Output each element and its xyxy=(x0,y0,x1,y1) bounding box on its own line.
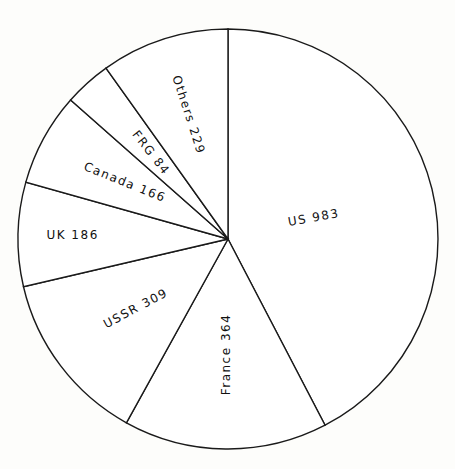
pie-chart: US 983France 364USSR 309UK 186Canada 166… xyxy=(0,0,455,469)
slice-label-uk: UK 186 xyxy=(46,228,98,242)
slice-label-france: France 364 xyxy=(219,314,233,396)
